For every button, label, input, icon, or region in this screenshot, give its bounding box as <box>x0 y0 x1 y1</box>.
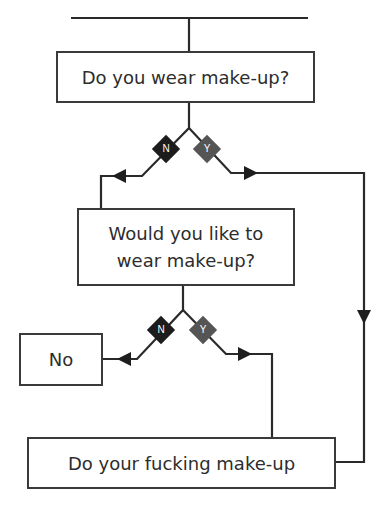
arrow-left-icon <box>112 169 126 183</box>
question-text-line2: wear make-up? <box>117 247 255 274</box>
yes-label: Y <box>195 137 219 161</box>
outcome-box-no: No <box>19 333 103 386</box>
question-text: Do you wear make-up? <box>82 64 290 91</box>
arrow-left-icon <box>117 352 131 366</box>
arrow-right-icon <box>244 166 258 180</box>
outcome-box-do-makeup: Do your fucking make-up <box>27 437 336 489</box>
no-label: N <box>149 318 173 342</box>
question-box-would-like: Would you like to wear make-up? <box>77 208 295 286</box>
arrow-down-icon <box>357 310 371 324</box>
yes-label: Y <box>191 318 215 342</box>
outcome-text: No <box>49 346 73 373</box>
question-text-line1: Would you like to <box>109 220 264 247</box>
no-label: N <box>154 137 178 161</box>
arrow-right-icon <box>238 347 252 361</box>
outcome-text: Do your fucking make-up <box>68 450 295 477</box>
question-box-wear-makeup: Do you wear make-up? <box>56 51 315 103</box>
